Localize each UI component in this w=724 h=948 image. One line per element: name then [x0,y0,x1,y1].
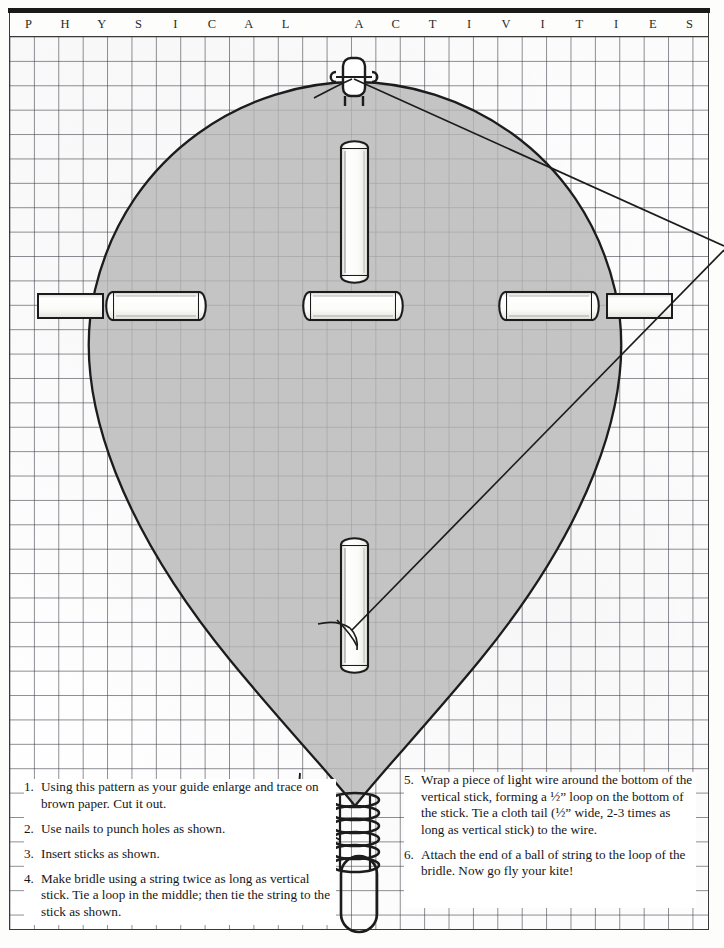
header-letter: V [488,17,525,32]
header-letter: H [47,17,84,32]
step-text: Attach the end of a ball of string to th… [421,847,696,880]
step-text: Insert sticks as shown. [41,846,336,863]
step-number: 5. [404,772,421,838]
instructions-right-column: 5. Wrap a piece of light wire around the… [404,772,696,908]
instructions-left-column: 1. Using this pattern as your guide enla… [24,779,336,925]
step-number: 3. [24,846,41,863]
header-letter: T [414,17,451,32]
header-letter: Y [83,17,120,32]
instruction-step: 2. Use nails to punch holes as shown. [24,821,336,838]
header-letter: P [10,17,47,32]
instruction-step: 4. Make bridle using a string twice as l… [24,871,336,921]
step-number: 2. [24,821,41,838]
header-letter: T [561,17,598,32]
header-letter: C [377,17,414,32]
instruction-step: 5. Wrap a piece of light wire around the… [404,772,696,838]
header-letter: S [671,17,708,32]
step-text: Using this pattern as your guide enlarge… [41,779,336,812]
header-letter: L [267,17,304,32]
header-letter: A [230,17,267,32]
header-letter: A [341,17,378,32]
step-text: Wrap a piece of light wire around the bo… [421,772,696,838]
instruction-step: 6. Attach the end of a ball of string to… [404,847,696,880]
step-number: 6. [404,847,421,880]
header-letter: E [634,17,671,32]
header-letter: I [451,17,488,32]
header-letter: I [524,17,561,32]
header-letter: S [120,17,157,32]
step-text: Use nails to punch holes as shown. [41,821,336,838]
step-number: 4. [24,871,41,921]
page-root: P H Y S I C A L A C T I V I T I E S [0,0,724,948]
instruction-step: 3. Insert sticks as shown. [24,846,336,863]
header-letter: I [598,17,635,32]
page-header-band: P H Y S I C A L A C T I V I T I E S [9,13,709,37]
header-letter: I [157,17,194,32]
step-text: Make bridle using a string twice as long… [41,871,336,921]
header-letter: C [194,17,231,32]
instruction-step: 1. Using this pattern as your guide enla… [24,779,336,812]
step-number: 1. [24,779,41,812]
